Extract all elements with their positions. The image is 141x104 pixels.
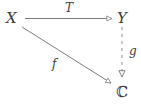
- node-label-y: Y: [117, 11, 127, 26]
- edge-label-t: T: [65, 2, 73, 14]
- edge-label-f: f: [52, 58, 56, 70]
- node-label-complex-plane: ℂ: [116, 85, 128, 100]
- node-label-x: X: [6, 11, 17, 26]
- edge-label-g: g: [129, 45, 137, 57]
- commutative-diagram: X Y ℂ T f g: [0, 0, 141, 104]
- arrow-x-to-c-diagonal: [22, 27, 111, 83]
